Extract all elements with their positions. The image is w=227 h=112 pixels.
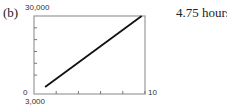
- chart-plot: [0, 0, 227, 112]
- data-line: [45, 16, 142, 87]
